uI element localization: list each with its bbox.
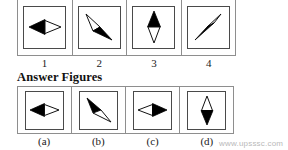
problem-label-2: 2 [72,57,127,71]
answer-c-box [133,91,172,130]
answer-option-c[interactable] [126,87,180,133]
figure-2-box [78,6,121,49]
problem-figure-cell-4[interactable] [182,0,236,55]
answer-figure-labels: (a) (b) (c) (d) [17,134,234,149]
site-watermark: www.upsssc.com [219,139,283,148]
problem-label-4: 4 [181,57,236,71]
answer-option-d[interactable] [180,87,233,133]
problem-label-3: 3 [127,57,182,71]
problem-figures-frame [17,0,236,56]
answer-label-b: (b) [71,134,125,149]
figure-1-box [23,6,66,49]
answer-d-box [187,91,226,130]
problem-figure-cell-3[interactable] [127,0,182,55]
double-arrow-diagonal-upperleft-filled-icon [85,96,113,124]
answer-label-a: (a) [17,134,71,149]
figure-4-box [187,6,230,49]
double-arrow-vertical-top-filled-icon [145,10,163,44]
question-sheet: 1 2 3 4 Answer Figures [0,0,288,150]
problem-figure-cell-2[interactable] [73,0,128,55]
answer-label-c: (c) [126,134,180,149]
problem-figure-labels: 1 2 3 4 [17,57,236,71]
figure-3-box [132,6,175,49]
double-arrow-diagonal-lowerleft-filled-icon [193,12,223,42]
answer-b-box [79,91,118,130]
answer-a-box [25,91,64,130]
answer-option-a[interactable] [18,87,72,133]
answer-option-b[interactable] [72,87,126,133]
double-arrow-horizontal-left-filled-icon [29,102,60,118]
double-arrow-horizontal-left-filled-icon [28,18,62,36]
answer-figures-heading: Answer Figures [17,70,102,85]
problem-figure-cell-1[interactable] [18,0,73,55]
double-arrow-vertical-bottom-filled-icon [199,95,215,126]
double-arrow-horizontal-right-filled-icon [137,102,168,118]
problem-label-1: 1 [17,57,72,71]
double-arrow-diagonal-lowerright-filled-icon [84,12,114,42]
answer-figures-frame [17,86,234,134]
